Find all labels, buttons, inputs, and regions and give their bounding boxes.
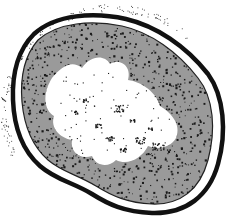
bacterial-cell-illustration [0, 0, 235, 223]
